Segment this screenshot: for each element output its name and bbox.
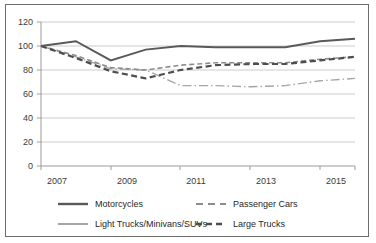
x-axis-labels: 2007 2009 2011 2013 2015 <box>47 176 346 186</box>
y-tick-label: 0 <box>28 161 33 171</box>
legend-label-passenger-cars: Passenger Cars <box>233 199 298 209</box>
y-tick-label: 60 <box>23 89 33 99</box>
x-tick-label: 2011 <box>186 176 205 186</box>
chart-screenshot: 120 100 80 60 40 20 0 2007 2009 2011 201… <box>0 0 376 243</box>
gridlines <box>41 22 355 142</box>
x-tick-marks <box>41 166 355 170</box>
x-tick-label: 2013 <box>256 176 276 186</box>
series-large-trucks <box>41 46 355 78</box>
series-passenger-cars <box>41 46 355 70</box>
x-tick-label: 2007 <box>47 176 67 186</box>
y-tick-marks <box>37 22 41 166</box>
y-tick-label: 40 <box>23 113 33 123</box>
series-motorcycles <box>41 39 355 61</box>
x-tick-label: 2009 <box>117 176 137 186</box>
line-chart: 120 100 80 60 40 20 0 2007 2009 2011 201… <box>0 0 376 243</box>
legend-label-large-trucks: Large Trucks <box>233 219 286 229</box>
y-axis-labels: 120 100 80 60 40 20 0 <box>18 17 33 171</box>
legend-label-light-trucks: Light Trucks/Minivans/SUVs <box>95 219 208 229</box>
y-tick-label: 20 <box>23 137 33 147</box>
series-light-trucks-minivans-suvs <box>41 46 355 87</box>
chart-legend: Motorcycles Passenger Cars Light Trucks/… <box>58 199 298 229</box>
y-tick-label: 100 <box>18 41 33 51</box>
legend-label-motorcycles: Motorcycles <box>95 199 144 209</box>
x-tick-label: 2015 <box>326 176 346 186</box>
y-tick-label: 80 <box>23 65 33 75</box>
y-tick-label: 120 <box>18 17 33 27</box>
